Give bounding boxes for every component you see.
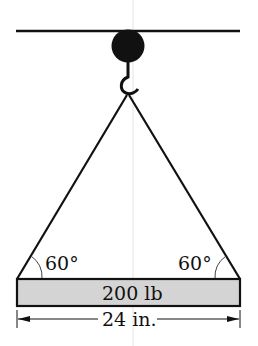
pulley-icon [112,30,145,63]
arrow-left-icon [18,316,30,322]
angle-arc-left [31,256,42,279]
weight-label: 200 lb [102,284,163,303]
hook-icon [121,62,138,94]
left-angle-label: 60° [45,254,79,273]
angle-arc-right [215,256,226,279]
arrow-right-icon [227,316,239,322]
right-angle-label: 60° [178,254,212,273]
diagram: 60° 60° 200 lb 24 in. [0,0,258,346]
width-label: 24 in. [102,310,157,329]
